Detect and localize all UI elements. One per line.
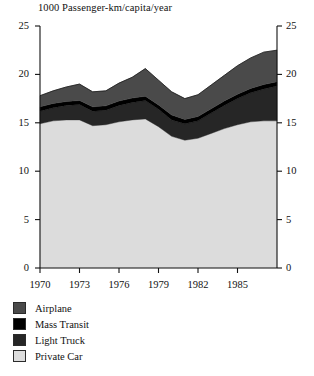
- legend-item: Airplane: [13, 300, 89, 316]
- y-axis-right-label: 20: [286, 69, 308, 80]
- y-axis-right-label: 25: [286, 21, 308, 32]
- x-axis-label: 1982: [178, 280, 218, 291]
- y-axis-left-label: 10: [7, 166, 29, 177]
- legend-swatch-icon: [13, 334, 26, 346]
- legend-swatch-icon: [13, 318, 26, 330]
- legend-item: Mass Transit: [13, 316, 89, 332]
- y-axis-left-label: 15: [7, 118, 29, 129]
- y-axis-right-label: 5: [286, 215, 308, 226]
- legend-item-label: Private Car: [35, 351, 83, 362]
- legend-item: Light Truck: [13, 332, 89, 348]
- y-axis-left-label: 5: [7, 215, 29, 226]
- x-axis-label: 1979: [139, 280, 179, 291]
- area-band-private-car: [40, 119, 277, 268]
- x-axis-label: 1970: [20, 280, 60, 291]
- x-axis-label: 1976: [99, 280, 139, 291]
- chart-root: 1000 Passenger-km/capita/year 0510152025…: [0, 0, 314, 376]
- y-axis-right-label: 15: [286, 118, 308, 129]
- y-axis-left-label: 0: [7, 263, 29, 274]
- y-axis-right-label: 10: [286, 166, 308, 177]
- x-axis-label: 1985: [218, 280, 258, 291]
- legend-swatch-icon: [13, 302, 26, 314]
- legend-item-label: Airplane: [35, 303, 72, 314]
- chart-legend: AirplaneMass TransitLight TruckPrivate C…: [13, 300, 89, 364]
- legend-item-label: Mass Transit: [35, 319, 89, 330]
- x-axis-label: 1973: [60, 280, 100, 291]
- legend-item-label: Light Truck: [35, 335, 85, 346]
- y-axis-left-label: 25: [7, 21, 29, 32]
- legend-item: Private Car: [13, 348, 89, 364]
- y-axis-left-label: 20: [7, 69, 29, 80]
- legend-swatch-icon: [13, 350, 26, 362]
- y-axis-right-label: 0: [286, 263, 308, 274]
